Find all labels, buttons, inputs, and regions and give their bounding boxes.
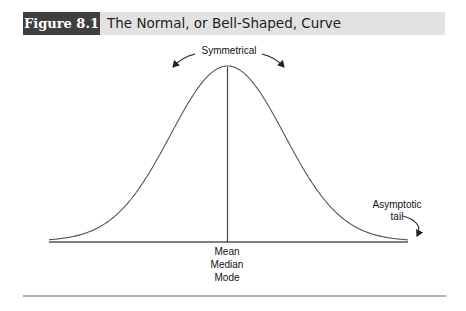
left-arrow-icon: [173, 54, 195, 67]
median-label: Median: [202, 259, 252, 271]
asymptotic-label: Asymptotic: [362, 199, 432, 211]
tail-label: tail: [362, 211, 432, 223]
mode-label: Mode: [202, 272, 252, 284]
right-arrow-icon: [262, 54, 284, 67]
bell-curve: [49, 66, 408, 240]
symmetrical-label: Symmetrical: [196, 45, 262, 57]
mean-label: Mean: [202, 246, 252, 258]
